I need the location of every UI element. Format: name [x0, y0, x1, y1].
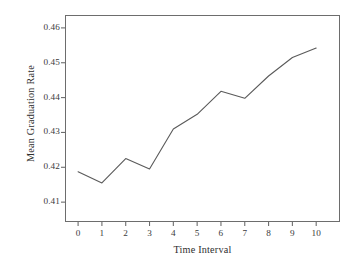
plot-area-frame: [65, 15, 340, 222]
x-axis-tick-label: 5: [184, 228, 210, 238]
y-axis-tick-label: 0.46: [26, 23, 60, 32]
x-axis-tick-label-group: 012345678910: [0, 228, 360, 242]
y-axis-tick-label: 0.41: [26, 197, 60, 206]
x-axis-tick-label: 6: [208, 228, 234, 238]
x-axis-tick-label: 4: [160, 228, 186, 238]
x-axis-tick-label: 9: [279, 228, 305, 238]
x-axis-tick-label: 3: [137, 228, 163, 238]
y-axis-title: Mean Graduation Rate: [25, 34, 36, 194]
x-axis-tick-label: 1: [89, 228, 115, 238]
x-axis-tick-label: 2: [113, 228, 139, 238]
x-axis-tick-label: 8: [256, 228, 282, 238]
x-axis-title: Time Interval: [65, 244, 340, 255]
chart-screenshot: 0.410.420.430.440.450.46 012345678910 Ti…: [0, 0, 360, 272]
x-axis-ticks: [78, 222, 316, 226]
x-axis-tick-label: 10: [303, 228, 329, 238]
x-axis-tick-label: 7: [232, 228, 258, 238]
x-axis-tick-label: 0: [65, 228, 91, 238]
